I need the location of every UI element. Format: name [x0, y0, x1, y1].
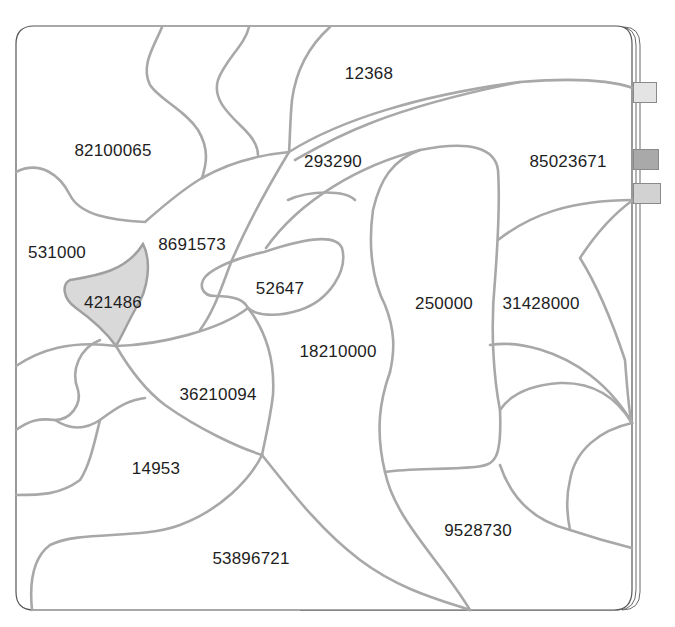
- region-label-14953[interactable]: 14953: [132, 460, 180, 477]
- region-label-52647[interactable]: 52647: [256, 280, 304, 297]
- region-label-31428000[interactable]: 31428000: [502, 295, 579, 312]
- region-label-8691573[interactable]: 8691573: [158, 236, 226, 253]
- region-label-12368[interactable]: 12368: [345, 65, 393, 82]
- region-label-421486-highlighted[interactable]: 421486: [84, 294, 142, 311]
- region-label-531000[interactable]: 531000: [28, 244, 86, 261]
- tab-dark[interactable]: [633, 149, 659, 170]
- region-label-36210094[interactable]: 36210094: [179, 386, 256, 403]
- region-label-293290[interactable]: 293290: [304, 153, 362, 170]
- region-label-82100065[interactable]: 82100065: [74, 142, 151, 159]
- region-label-9528730[interactable]: 9528730: [444, 522, 512, 539]
- region-label-85023671[interactable]: 85023671: [529, 153, 606, 170]
- tab-medium[interactable]: [633, 183, 661, 204]
- region-label-250000[interactable]: 250000: [415, 295, 473, 312]
- page-outline-and-regions: [0, 0, 675, 627]
- tab-light[interactable]: [633, 82, 657, 103]
- region-label-18210000[interactable]: 18210000: [299, 343, 376, 360]
- coloring-page: 12368 82100065 293290 85023671 531000 86…: [0, 0, 675, 627]
- region-label-53896721[interactable]: 53896721: [212, 550, 289, 567]
